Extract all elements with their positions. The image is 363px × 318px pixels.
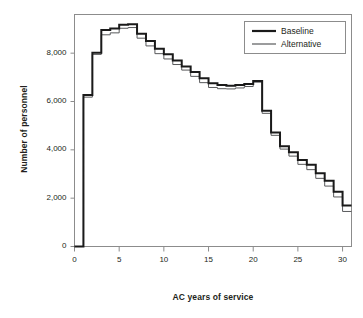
series-line-baseline (75, 24, 352, 246)
y-tick-label: 6,000 (33, 96, 67, 105)
x-tick-label: 10 (152, 255, 176, 264)
chart-figure: Baseline Alternative AC years of service… (0, 0, 363, 318)
y-tick-label: 4,000 (33, 144, 67, 153)
x-tick-label: 30 (331, 255, 355, 264)
y-axis-title: Number of personnel (19, 49, 29, 209)
x-tick-label: 25 (286, 255, 310, 264)
series-line-alternative (75, 28, 352, 247)
x-axis-title: AC years of service (74, 292, 352, 302)
y-tick-label: 2,000 (33, 193, 67, 202)
x-tick-label: 5 (107, 255, 131, 264)
series-group (75, 24, 352, 246)
x-tick-label: 0 (63, 255, 87, 264)
chart-legend: Baseline Alternative (245, 22, 346, 54)
y-tick-label: 8,000 (33, 48, 67, 57)
y-tick-label: 0 (33, 241, 67, 250)
x-tick-label: 15 (197, 255, 221, 264)
legend-label-baseline: Baseline (281, 26, 314, 36)
x-tick-label: 20 (241, 255, 265, 264)
legend-label-alternative: Alternative (281, 39, 321, 49)
